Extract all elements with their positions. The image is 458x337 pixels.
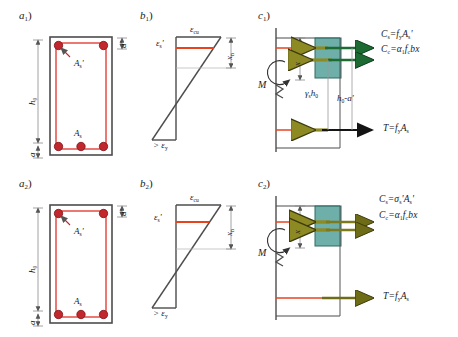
equation-c2-t: T=fyAs xyxy=(383,291,409,302)
panel-tag-a2: a2) xyxy=(19,177,32,190)
panel-tag-a1: a1) xyxy=(19,9,32,22)
label-b2-es-prime: εs' xyxy=(154,212,162,223)
label-b2-ey: > εy xyxy=(153,308,168,319)
equation-c2-cs: Cs=σs'As' xyxy=(379,194,414,205)
panel-c1-force-diagram xyxy=(267,28,372,152)
panel-a1-cross-section xyxy=(33,37,127,158)
label-b1-ey: > εy xyxy=(153,140,168,151)
label-a2-as-bot: As xyxy=(74,296,82,307)
label-c1-h0-minus-a: h0-a' xyxy=(337,93,354,104)
panel-a2-cross-section xyxy=(33,205,127,326)
label-b2-ecu: εcu xyxy=(190,192,199,203)
label-a1-d-prime: d' xyxy=(118,42,128,48)
figure-canvas: a1) h0 a d' As' As b1) εcu εs' xn > εy c… xyxy=(0,0,458,337)
equation-c1-t: T=fyAs xyxy=(383,123,409,134)
label-a2-h0: h0 xyxy=(27,266,38,273)
panel-tag-c1: c1) xyxy=(258,9,270,22)
panel-b2-strain-diagram xyxy=(152,205,236,308)
label-a1-a: a xyxy=(27,153,37,158)
panel-tag-b1: b1) xyxy=(140,9,153,22)
label-c1-gamma-h0: γsh0 xyxy=(305,88,318,99)
panel-tag-c2: c2) xyxy=(258,177,270,190)
label-c1-moment: M xyxy=(258,79,266,90)
label-a1-as-bot: As xyxy=(74,128,82,139)
label-c2-moment: M xyxy=(258,247,266,258)
label-b1-es-prime: εs' xyxy=(156,38,164,49)
label-a1-as-top: As' xyxy=(74,58,84,69)
equation-c1-cs: Cs=fyAs' xyxy=(381,29,413,40)
label-a2-d-prime: d' xyxy=(118,210,128,216)
label-a2-as-top: As' xyxy=(74,226,84,237)
label-a2-a: a xyxy=(27,321,37,326)
label-c2-x: x xyxy=(292,230,302,234)
label-b2-xn: xn xyxy=(224,229,235,236)
label-b1-xn: xn xyxy=(224,53,235,60)
label-c1-x: x xyxy=(292,62,302,66)
panel-c2-force-diagram xyxy=(267,196,372,320)
equation-c2-cc: Cc=α1fcbx xyxy=(379,210,417,221)
panel-tag-b2: b2) xyxy=(140,177,153,190)
label-a1-h0: h0 xyxy=(27,98,38,105)
equation-c1-cc: Cc=α1fcbx xyxy=(381,44,419,55)
label-b1-ecu: εcu xyxy=(190,24,199,35)
